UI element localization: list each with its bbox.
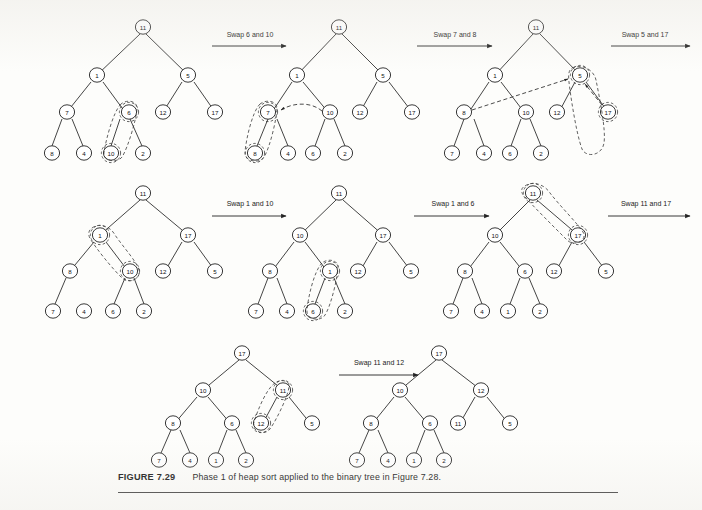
tree-1-nodes: 11 1 5 7 6 xyxy=(44,20,222,160)
node-label: 8 xyxy=(463,268,467,275)
node-label: 8 xyxy=(462,109,466,116)
tree-7-edges xyxy=(161,360,310,453)
node-left: 10 xyxy=(292,228,307,242)
node-leaf-1: 8 xyxy=(44,146,59,160)
node-right: 17 xyxy=(570,228,585,242)
node-label: 4 xyxy=(286,150,290,157)
arrow-label: Swap 1 and 6 xyxy=(432,200,475,208)
node-label: 1 xyxy=(412,457,416,464)
arrow-4: Swap 1 and 10 xyxy=(212,200,286,216)
node-leaf-2: 4 xyxy=(474,304,489,318)
node-label: 4 xyxy=(188,457,192,464)
node-label: 8 xyxy=(171,420,175,427)
node-label: 1 xyxy=(214,457,218,464)
node-label: 8 xyxy=(253,150,257,157)
node-right-left: 12 xyxy=(155,264,170,278)
node-label: 7 xyxy=(65,109,69,116)
node-label: 8 xyxy=(50,150,54,157)
node-label: 5 xyxy=(213,268,217,275)
node-label: 11 xyxy=(455,420,462,427)
tree-3: 11 1 5 8 10 xyxy=(444,20,617,160)
node-label: 17 xyxy=(212,109,219,116)
node-left-left: 8 xyxy=(165,416,180,430)
node-left: 1 xyxy=(289,68,304,82)
node-leaf-4: 2 xyxy=(337,146,352,160)
node-label: 2 xyxy=(539,150,543,157)
arrow-label: Swap 1 and 10 xyxy=(227,200,274,208)
node-left: 1 xyxy=(89,68,104,82)
node-label: 4 xyxy=(82,150,86,157)
node-left-left: 8 xyxy=(456,105,471,119)
node-leaf-2: 4 xyxy=(76,146,91,160)
node-right-right: 5 xyxy=(403,264,418,278)
node-root: 11 xyxy=(528,20,543,34)
node-left-right: 6 xyxy=(422,416,437,430)
node-label: 6 xyxy=(311,150,315,157)
node-leaf-1: 7 xyxy=(151,453,166,467)
node-root: 11 xyxy=(135,186,150,200)
node-right-left: 12 xyxy=(350,264,365,278)
arrow-3: Swap 5 and 17 xyxy=(611,31,690,46)
node-label: 12 xyxy=(160,268,167,275)
node-label: 10 xyxy=(397,387,404,394)
figure-heap-sort-phase1: 11 1 5 7 6 xyxy=(0,0,702,510)
node-label: 2 xyxy=(343,150,347,157)
node-right-left: 11 xyxy=(450,416,465,430)
node-label: 10 xyxy=(327,109,334,116)
node-left: 10 xyxy=(392,383,407,397)
node-left-right: 6 xyxy=(121,105,136,119)
node-left-left: 8 xyxy=(62,264,77,278)
node-left-right: 10 xyxy=(518,105,533,119)
node-leaf-2: 4 xyxy=(279,304,294,318)
node-label: 2 xyxy=(343,308,347,315)
node-left-left: 7 xyxy=(59,105,74,119)
node-root: 11 xyxy=(525,186,540,200)
node-label: 10 xyxy=(297,232,304,239)
node-left-left: 8 xyxy=(262,264,277,278)
node-label: 12 xyxy=(160,109,167,116)
tree-1: 11 1 5 7 6 xyxy=(44,20,222,163)
node-label: 11 xyxy=(336,190,343,197)
node-label: 10 xyxy=(523,109,530,116)
tree-2-edges xyxy=(257,34,412,146)
arrow-7: Swap 11 and 12 xyxy=(339,359,418,375)
node-label: 1 xyxy=(328,268,332,275)
node-left-right: 10 xyxy=(122,264,137,278)
node-label: 5 xyxy=(508,420,512,427)
node-right: 17 xyxy=(180,228,195,242)
node-label: 12 xyxy=(551,268,558,275)
arrow-5: Swap 1 and 6 xyxy=(414,200,489,216)
tree-4: 11 1 17 8 10 xyxy=(45,186,222,318)
tree-5-nodes: 11 10 17 8 1 xyxy=(248,186,418,318)
node-leaf-4: 2 xyxy=(238,453,253,467)
node-label: 12 xyxy=(355,268,362,275)
node-leaf-3: 1 xyxy=(500,304,515,318)
node-label: 5 xyxy=(310,420,314,427)
node-left-right: 1 xyxy=(322,264,337,278)
node-label: 4 xyxy=(482,150,486,157)
tree-7: 17 10 11 8 6 xyxy=(151,346,319,467)
node-root: 17 xyxy=(234,346,249,360)
node-leaf-3: 6 xyxy=(502,146,517,160)
node-label: 6 xyxy=(127,109,131,116)
node-label: 4 xyxy=(82,308,86,315)
node-label: 8 xyxy=(268,268,272,275)
node-label: 6 xyxy=(311,308,315,315)
node-leaf-1: 7 xyxy=(349,453,364,467)
node-label: 2 xyxy=(538,308,542,315)
node-right-right: 5 xyxy=(598,264,613,278)
node-root: 17 xyxy=(431,346,446,360)
tree-5: 11 10 17 8 1 xyxy=(248,186,418,321)
node-label: 1 xyxy=(493,72,497,79)
tree-7-nodes: 17 10 11 8 6 xyxy=(151,346,319,467)
arrow-6: Swap 11 and 17 xyxy=(608,200,690,216)
node-label: 10 xyxy=(492,232,499,239)
figure-number: FIGURE 7.29 xyxy=(118,472,175,482)
node-left: 1 xyxy=(92,228,107,242)
node-label: 1 xyxy=(506,308,510,315)
node-right-left: 12 xyxy=(546,264,561,278)
node-label: 2 xyxy=(244,457,248,464)
node-label: 5 xyxy=(381,72,385,79)
node-leaf-4: 2 xyxy=(136,304,151,318)
node-label: 17 xyxy=(605,109,612,116)
